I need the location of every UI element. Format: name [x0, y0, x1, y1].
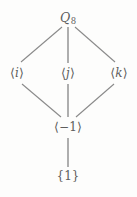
node-subgroup-k: ⟨k⟩	[110, 67, 127, 80]
node-subgroup-minus-one: ⟨−1⟩	[54, 121, 82, 134]
node-subgroup-i: ⟨i⟩	[10, 67, 24, 80]
edge-layer	[0, 0, 137, 197]
node-q8-base: Q	[60, 10, 70, 25]
edge-q8-to-i	[21, 27, 62, 62]
angle-bracket-close-icon: ⟩	[70, 65, 75, 80]
node-q8-subscript: 8	[71, 16, 77, 26]
edge-k-to-minus-one	[76, 84, 114, 117]
node-q8: Q8	[60, 12, 76, 25]
angle-bracket-close-icon: ⟩	[19, 65, 24, 80]
node-trivial-subgroup: {1}	[56, 170, 79, 182]
angle-bracket-close-icon: ⟩	[77, 119, 82, 134]
node-subgroup-j: ⟨j⟩	[61, 67, 75, 80]
edge-q8-to-k	[75, 27, 115, 62]
node-subgroup-minus-one-label: −1	[59, 120, 77, 134]
subgroup-lattice-diagram: Q8 ⟨i⟩ ⟨j⟩ ⟨k⟩ ⟨−1⟩ {1}	[0, 0, 137, 197]
edge-i-to-minus-one	[22, 84, 61, 117]
angle-bracket-close-icon: ⟩	[123, 65, 128, 80]
